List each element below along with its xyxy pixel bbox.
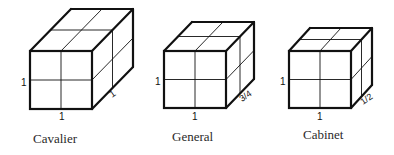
cube-caption: General: [172, 129, 214, 144]
height-label: 1: [280, 76, 286, 87]
cube-general: 113/4General: [155, 22, 254, 144]
cube-caption: Cavalier: [33, 131, 78, 146]
width-label: 1: [317, 111, 323, 122]
depth-label: 1/2: [358, 91, 374, 106]
height-label: 1: [155, 76, 161, 87]
width-label: 1: [192, 111, 198, 122]
cube-cabinet: 111/2Cabinet: [280, 28, 374, 142]
cube-cavalier: 111Cavalier: [21, 9, 133, 146]
oblique-projection-diagram: 111Cavalier113/4General111/2Cabinet: [0, 0, 394, 155]
cube-caption: Cabinet: [303, 127, 344, 142]
width-label: 1: [59, 111, 65, 122]
height-label: 1: [21, 77, 27, 88]
depth-label: 1: [107, 87, 118, 99]
